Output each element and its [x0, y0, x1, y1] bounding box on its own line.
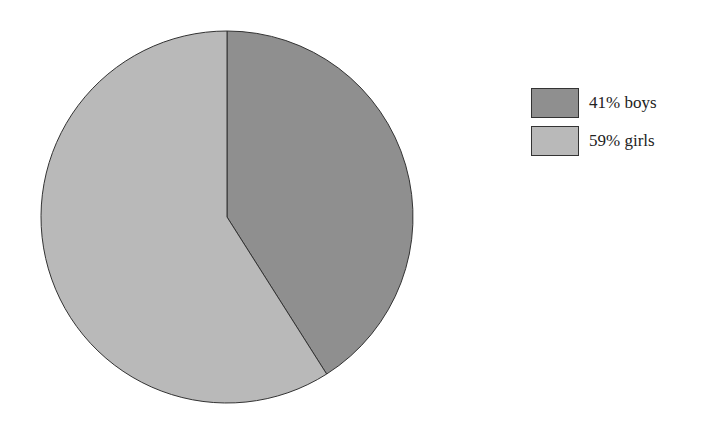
legend-label-boys: 41% boys: [589, 93, 657, 113]
legend-item-boys: 41% boys: [531, 86, 657, 120]
legend: 41% boys 59% girls: [531, 86, 657, 162]
pie-chart: [0, 0, 711, 432]
legend-label-girls: 59% girls: [589, 131, 655, 151]
legend-swatch-boys: [531, 88, 579, 118]
legend-swatch-girls: [531, 126, 579, 156]
legend-item-girls: 59% girls: [531, 124, 657, 158]
